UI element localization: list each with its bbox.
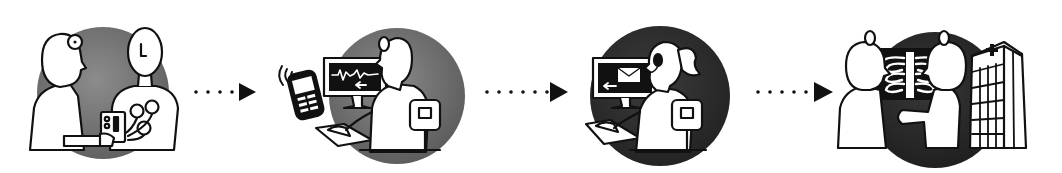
step-1-ecg-recording [30,27,178,159]
flow-arrow-1 [194,83,256,101]
hospital-building-icon [970,42,1026,148]
arrowhead-icon [239,83,256,101]
mobile-phone-icon [287,69,325,120]
step-2-wireless-transmission [279,28,465,164]
ecg-recorder-device-icon [100,112,125,146]
step-3-operator-email [586,26,730,166]
step-4-hospital-review [838,31,1026,168]
diagram-canvas [0,0,1062,173]
process-flow-diagram [0,0,1062,173]
flow-arrow-3 [756,82,833,102]
flow-arrow-2 [485,82,568,102]
arrowhead-icon [550,82,568,102]
patient-head-icon [128,28,162,76]
arrowhead-icon [814,82,833,102]
